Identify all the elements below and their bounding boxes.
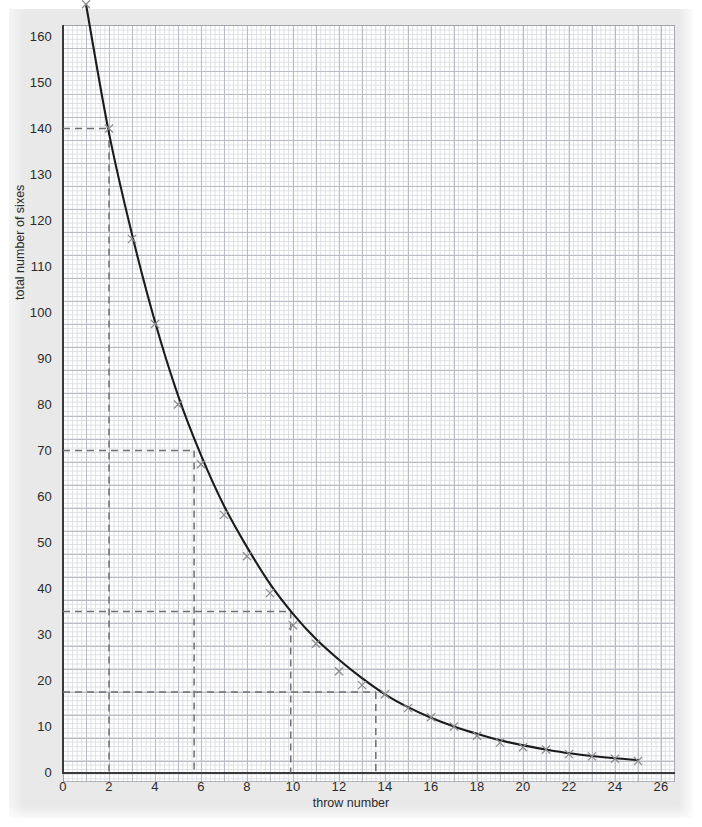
x-tick-label: 2	[89, 779, 129, 794]
y-tick-label: 0	[12, 765, 52, 780]
x-tick-label: 12	[319, 779, 359, 794]
y-tick-label: 90	[12, 351, 52, 366]
y-axis-title: total number of sixes	[13, 80, 27, 300]
x-tick-label: 26	[641, 779, 681, 794]
x-tick-label: 0	[43, 779, 83, 794]
data-point-cross	[634, 757, 642, 765]
y-tick-label: 80	[12, 397, 52, 412]
curve-path	[86, 4, 638, 760]
y-tick-label: 20	[12, 673, 52, 688]
data-point-cross	[243, 552, 251, 560]
data-point-cross	[335, 667, 343, 675]
x-tick-label: 10	[273, 779, 313, 794]
y-tick-label: 60	[12, 489, 52, 504]
x-tick-label: 14	[365, 779, 405, 794]
dashed-guide-lines	[63, 129, 376, 773]
y-tick-label: 40	[12, 581, 52, 596]
graph-page: 0102030405060708090100110120130140150160…	[0, 0, 702, 827]
data-point-cross	[358, 681, 366, 689]
x-tick-label: 16	[411, 779, 451, 794]
y-tick-label: 30	[12, 627, 52, 642]
y-tick-label: 50	[12, 535, 52, 550]
data-point-cross	[312, 640, 320, 648]
y-tick-label: 160	[12, 29, 52, 44]
x-tick-label: 6	[181, 779, 221, 794]
data-point-markers	[82, 0, 642, 765]
fitted-curve	[86, 4, 638, 760]
y-tick-label: 70	[12, 443, 52, 458]
x-tick-label: 18	[457, 779, 497, 794]
data-point-cross	[220, 511, 228, 519]
read-off-guide	[63, 692, 376, 773]
data-point-cross	[266, 589, 274, 597]
x-tick-label: 20	[503, 779, 543, 794]
y-tick-label: 100	[12, 305, 52, 320]
x-tick-label: 8	[227, 779, 267, 794]
chart-overlay	[0, 0, 702, 827]
x-tick-label: 4	[135, 779, 175, 794]
x-axis-title: throw number	[0, 796, 702, 810]
x-tick-label: 22	[549, 779, 589, 794]
x-tick-label: 24	[595, 779, 635, 794]
data-point-cross	[381, 690, 389, 698]
y-tick-label: 10	[12, 719, 52, 734]
